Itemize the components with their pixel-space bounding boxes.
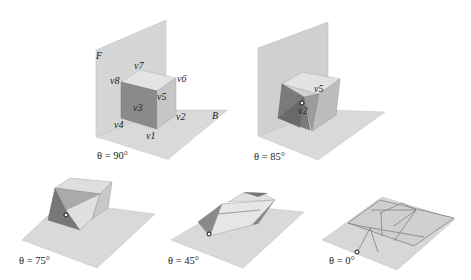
label-v6: v6 [177,73,186,84]
caption-theta-85: θ = 85° [254,151,285,162]
caption-theta-75: θ = 75° [19,255,50,266]
label-v4: v4 [114,119,123,130]
panel-theta-0: θ = 0° [322,197,455,270]
label-v5: v5 [314,83,323,94]
label-v3: v3 [133,102,142,113]
label-b: B [212,110,218,121]
caption-theta-90: θ = 90° [97,150,128,161]
caption-theta-0: θ = 0° [329,255,355,266]
label-v8: v8 [110,75,119,86]
figure-canvas: F B v7 v8 v6 v5 v3 v2 v4 v1 θ = 90° v5 v… [0,0,471,280]
label-v7: v7 [134,60,144,71]
label-f: F [95,50,103,61]
vertex-marker [355,250,359,254]
panel-theta-45: θ = 45° [168,192,304,268]
label-v2: v2 [298,105,307,116]
label-v1: v1 [146,130,155,141]
panel-theta-75: θ = 75° [19,178,155,268]
label-v2: v2 [176,111,185,122]
panel-theta-85: v5 v2 θ = 85° [254,22,385,162]
panel-theta-90: F B v7 v8 v6 v5 v3 v2 v4 v1 θ = 90° [95,20,228,161]
vertex-marker [207,232,211,236]
vertex-marker [64,213,68,217]
caption-theta-45: θ = 45° [168,255,199,266]
label-v5: v5 [157,91,166,102]
